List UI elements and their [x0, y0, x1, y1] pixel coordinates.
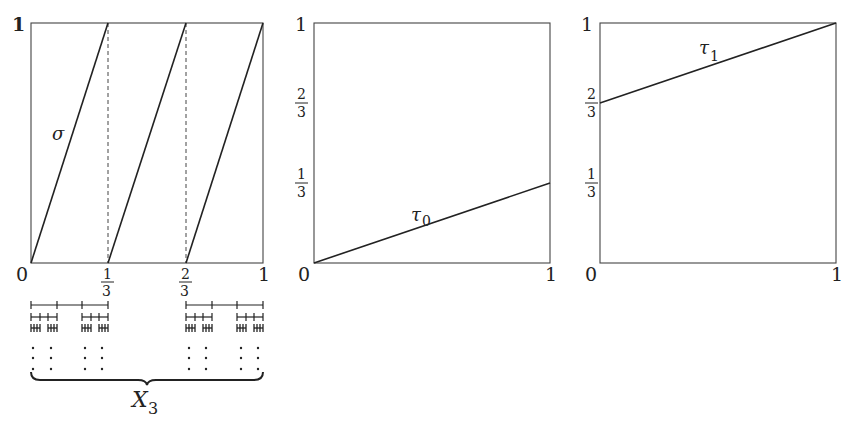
- y-tick-two-thirds-den: 3: [587, 104, 596, 120]
- y-tick-third-num: 1: [587, 166, 596, 182]
- x-tick-two-thirds-den: 3: [180, 283, 189, 299]
- x-tick-two-thirds-num: 2: [181, 266, 190, 282]
- tau1-label: τ: [699, 37, 710, 58]
- sigma-branch-2: [108, 23, 186, 263]
- x-tick-one: 1: [831, 263, 843, 285]
- y-tick-two-thirds-num: 2: [297, 86, 306, 102]
- cantor-set-construction: [31, 301, 263, 385]
- cantor-continuation-dots: [32, 347, 259, 370]
- plot-frame: [314, 23, 550, 263]
- sigma-label: σ: [52, 123, 65, 144]
- panel-tau0: τ 0 1 2 3 1 3 0 1: [295, 13, 557, 285]
- y-tick-one: 1: [581, 13, 593, 35]
- cantor-level-3: [31, 324, 263, 332]
- x-tick-zero: 0: [585, 263, 597, 285]
- y-tick-two-thirds-num: 2: [587, 86, 596, 102]
- panel-sigma: σ 1 0 1 3 2 3 1: [12, 13, 270, 299]
- underbrace: [31, 372, 263, 385]
- tau1-label-subscript: 1: [710, 48, 719, 64]
- sigma-branch-3: [186, 23, 263, 263]
- sigma-branch-1: [31, 23, 108, 263]
- y-tick-third-den: 3: [587, 184, 596, 200]
- cantor-label-subscript: 3: [148, 399, 158, 418]
- y-tick-one: 1: [295, 13, 307, 35]
- cantor-label-x: X: [130, 387, 149, 412]
- y-tick-third-num: 1: [297, 166, 306, 182]
- x-tick-one: 1: [258, 263, 270, 285]
- tau0-line: [314, 183, 550, 263]
- x-tick-one: 1: [545, 263, 557, 285]
- y-tick-two-thirds-den: 3: [297, 104, 306, 120]
- x-tick-zero: 0: [16, 263, 28, 285]
- tau0-label: τ: [411, 204, 422, 225]
- y-tick-one: 1: [12, 13, 25, 35]
- x-tick-zero: 0: [298, 263, 310, 285]
- y-tick-third-den: 3: [297, 184, 306, 200]
- x-tick-third-num: 1: [103, 266, 112, 282]
- panel-tau1: τ 1 1 2 3 1 3 0 1: [581, 13, 843, 285]
- cantor-level-1: [31, 301, 263, 309]
- figure: σ 1 0 1 3 2 3 1: [0, 0, 851, 423]
- x-tick-third-den: 3: [102, 283, 111, 299]
- cantor-level-2: [31, 313, 263, 321]
- tau0-label-subscript: 0: [422, 213, 431, 229]
